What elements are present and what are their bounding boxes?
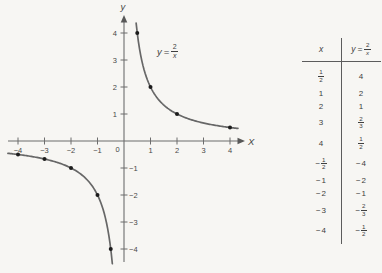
data-point-dot: [109, 247, 113, 251]
fraction: 23: [361, 203, 366, 217]
table-row: 12: [301, 87, 381, 100]
y-value-cell: −2: [341, 176, 381, 185]
x-value-cell: 2: [301, 102, 341, 111]
curve-branch: [8, 153, 112, 263]
y-axis-arrow-icon: [121, 15, 128, 23]
minus-sign: −: [316, 176, 321, 185]
x-tick-label: 1: [148, 146, 152, 155]
fraction-denominator: 2: [358, 144, 363, 151]
y-value-cell: 4: [341, 72, 381, 81]
equation-lhs: y: [157, 46, 162, 57]
minus-sign: −: [315, 159, 320, 168]
minus-sign: −: [316, 189, 321, 198]
header-y-lhs: y: [351, 44, 355, 54]
minus-sign: −: [355, 226, 360, 235]
y-value-cell: −1: [341, 189, 381, 198]
data-point-dot: [43, 157, 47, 161]
y-tick-label: 3: [113, 56, 117, 65]
value-text: 1: [322, 176, 326, 185]
equation-fraction: 2 x: [171, 43, 178, 59]
x-tick-label: −1: [93, 146, 102, 155]
x-value-cell: 12: [301, 69, 341, 83]
table-row: 323: [301, 113, 381, 134]
curve-branch: [136, 23, 238, 128]
table-row: −3−23: [301, 200, 381, 221]
value-text: 2: [322, 189, 326, 198]
fraction-denominator: 2: [318, 77, 323, 84]
table-row: 412: [301, 133, 381, 154]
table-row: −2−1: [301, 187, 381, 200]
fraction-numerator: 2: [171, 43, 178, 52]
value-text: 4: [359, 72, 363, 81]
value-text: 4: [319, 139, 323, 148]
fraction: 12: [318, 69, 323, 83]
fraction: 23: [358, 116, 363, 130]
value-text: 2: [319, 102, 323, 111]
x-value-cell: −4: [301, 226, 341, 235]
x-tick-label: 3: [201, 146, 205, 155]
data-point-dot: [149, 85, 153, 89]
y-value-cell: −23: [341, 203, 381, 217]
x-value-cell: 3: [301, 118, 341, 127]
header-x-cell: x: [301, 44, 341, 54]
x-axis-arrow-icon: [238, 138, 246, 145]
y-tick-label: 4: [113, 29, 117, 38]
x-value-cell: −1: [301, 176, 341, 185]
value-text: 3: [322, 206, 326, 215]
header-y-fraction: 2 x: [364, 42, 370, 56]
value-text: 1: [362, 189, 366, 198]
table-row: −4−12: [301, 221, 381, 242]
origin-label: 0: [115, 145, 119, 154]
data-point-dot: [96, 193, 100, 197]
value-text: 3: [319, 118, 323, 127]
x-value-cell: −3: [301, 206, 341, 215]
x-tick-label: −2: [67, 146, 76, 155]
data-point-dot: [135, 31, 139, 35]
table-rows: 1241221323412−12−4−1−2−2−1−3−23−4−12: [301, 66, 381, 241]
value-text: 2: [359, 89, 363, 98]
fraction-denominator: 3: [358, 123, 363, 130]
x-value-cell: −2: [301, 189, 341, 198]
equation-equals: =: [164, 46, 170, 57]
minus-sign: −: [356, 159, 361, 168]
value-text: 1: [359, 102, 363, 111]
minus-sign: −: [356, 189, 361, 198]
y-value-cell: −12: [341, 224, 381, 238]
header-y-cell: y = 2 x: [341, 42, 381, 56]
fraction: 12: [361, 224, 366, 238]
y-tick-label: −3: [129, 218, 138, 227]
fraction-denominator: 2: [321, 164, 326, 171]
header-y-equals: =: [357, 44, 362, 54]
table-row: −1−2: [301, 174, 381, 187]
value-table: x y = 2 x 1241221323412−12−4−1−2−2−1−3−2…: [301, 38, 381, 244]
y-tick-label: −2: [129, 191, 138, 200]
x-tick-label: 4: [228, 146, 232, 155]
y-tick-label: −1: [129, 164, 138, 173]
minus-sign: −: [356, 176, 361, 185]
y-value-cell: 12: [341, 136, 381, 150]
fraction-denominator: 3: [361, 211, 366, 218]
textbook-figure: Xy0−4−3−2−112344321−1−2−3−4 y = 2 x x y …: [0, 0, 382, 273]
y-tick-label: −4: [129, 245, 138, 254]
table-row: 21: [301, 100, 381, 113]
minus-sign: −: [355, 206, 360, 215]
y-value-cell: 23: [341, 116, 381, 130]
y-tick-label: 2: [113, 83, 117, 92]
table-row: −12−4: [301, 154, 381, 175]
fraction: 12: [358, 136, 363, 150]
value-text: 4: [322, 226, 326, 235]
equation-label: y = 2 x: [157, 43, 178, 59]
data-point-dot: [69, 166, 73, 170]
x-tick-label: 2: [175, 146, 179, 155]
table-row: 124: [301, 66, 381, 87]
value-text: 2: [362, 176, 366, 185]
data-point-dot: [175, 112, 179, 116]
fraction-denominator: 2: [361, 231, 366, 238]
fraction: 12: [321, 157, 326, 171]
x-axis-label: X: [247, 136, 255, 147]
value-text: 4: [362, 159, 366, 168]
x-tick-label: −3: [40, 146, 49, 155]
x-value-cell: 4: [301, 139, 341, 148]
value-text: 1: [319, 89, 323, 98]
y-tick-label: 1: [113, 110, 117, 119]
